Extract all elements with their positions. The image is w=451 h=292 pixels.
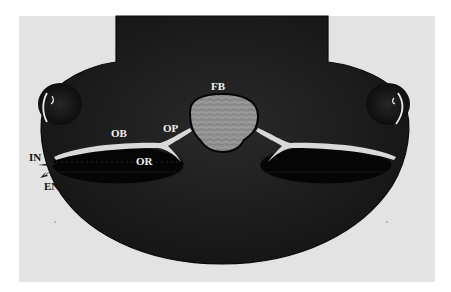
left-eye: [38, 83, 82, 125]
label-fb: FB: [211, 80, 226, 92]
label-en: EN: [44, 180, 59, 192]
label-or: OR: [136, 155, 154, 167]
right-eye: [366, 83, 410, 125]
speck-left: [54, 221, 56, 223]
speck-right: [386, 221, 388, 223]
label-in: IN: [29, 151, 41, 163]
label-op: OP: [163, 122, 179, 134]
olfactory-diagram: FB OP OB OR IN EN: [0, 0, 451, 292]
label-ob: OB: [111, 127, 128, 139]
